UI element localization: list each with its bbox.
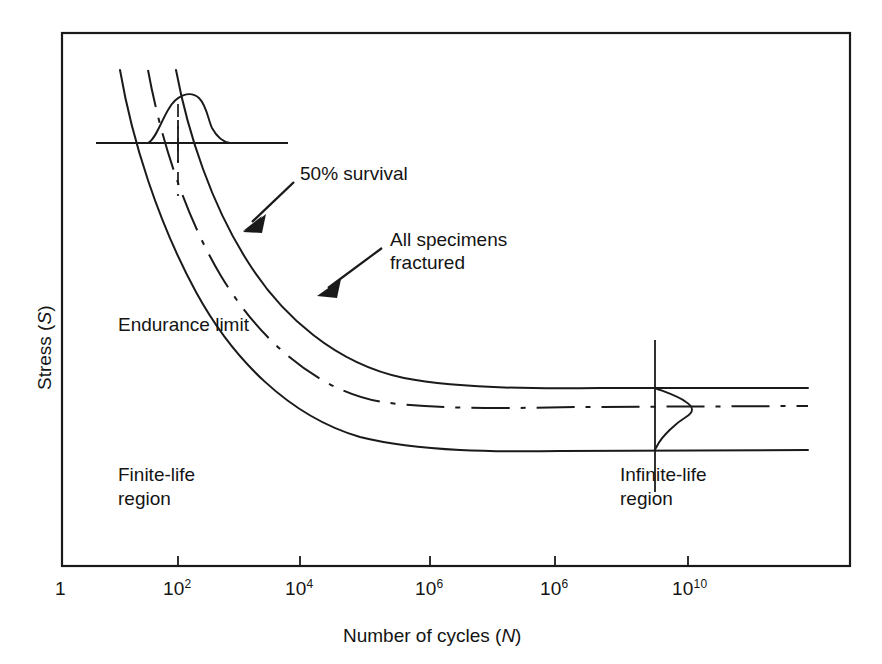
sn-fatigue-curve-figure: Stress (S) 1 102 104 106 106 1010 Number…: [0, 0, 882, 664]
annotation-50-percent-survival: 50% survival: [300, 163, 408, 185]
x-axis-title-text: Number of cycles (: [343, 625, 501, 646]
annotation-infinite-life-region-line2: region: [620, 488, 673, 510]
callout-arrow-50-survival: [243, 182, 294, 233]
x-tick-label-1-mantissa: 1: [55, 578, 66, 599]
annotation-all-specimens-fractured-line1: All specimens: [390, 229, 507, 251]
y-axis-title-close: ): [34, 306, 55, 312]
callout-arrow-fractured: [317, 248, 382, 298]
x-tick-label-6-exponent: 10: [694, 577, 708, 591]
y-axis-title-variable: S: [34, 312, 55, 325]
x-tick-label-5-exponent: 6: [562, 577, 569, 591]
distribution-bell-curve-finite: [148, 94, 230, 143]
x-tick-label-2: 102: [163, 578, 191, 600]
annotation-finite-life-region-line2: region: [118, 488, 171, 510]
x-tick-label-6-mantissa: 10: [672, 578, 694, 599]
x-tick-label-2-exponent: 2: [185, 577, 192, 591]
x-tick-label-6: 1010: [672, 578, 707, 600]
x-tick-label-5: 106: [540, 578, 568, 600]
x-tick-label-4-exponent: 6: [437, 577, 444, 591]
x-tick-label-4-mantissa: 10: [415, 578, 437, 599]
x-axis-title: Number of cycles (N): [343, 625, 521, 647]
finite-life-distribution: [96, 94, 288, 196]
y-axis-title-text: Stress (: [34, 325, 55, 390]
x-axis-title-close: ): [515, 625, 521, 646]
y-axis-title: Stress (S): [34, 306, 56, 390]
arrow-head-fractured: [317, 279, 341, 298]
x-tick-label-1: 1: [55, 578, 66, 600]
x-tick-label-4: 106: [415, 578, 443, 600]
arrow-shaft-fractured: [328, 248, 382, 288]
x-tick-label-5-mantissa: 10: [540, 578, 562, 599]
annotation-endurance-limit: Endurance limit: [118, 314, 249, 336]
x-tick-label-3: 104: [285, 578, 313, 600]
arrow-head-survival-solid: [243, 214, 266, 233]
x-axis-title-variable: N: [501, 625, 515, 646]
annotation-finite-life-region-line1: Finite-life: [118, 464, 195, 486]
x-tick-label-3-mantissa: 10: [285, 578, 307, 599]
annotation-all-specimens-fractured-line2: fractured: [390, 252, 465, 274]
distribution-bell-curve-infinite: [655, 388, 692, 450]
x-tick-label-3-exponent: 4: [307, 577, 314, 591]
annotation-infinite-life-region-line1: Infinite-life: [620, 464, 707, 486]
x-tick-label-2-mantissa: 10: [163, 578, 185, 599]
x-axis-ticks: [178, 556, 688, 566]
arrow-shaft-survival: [252, 182, 294, 222]
